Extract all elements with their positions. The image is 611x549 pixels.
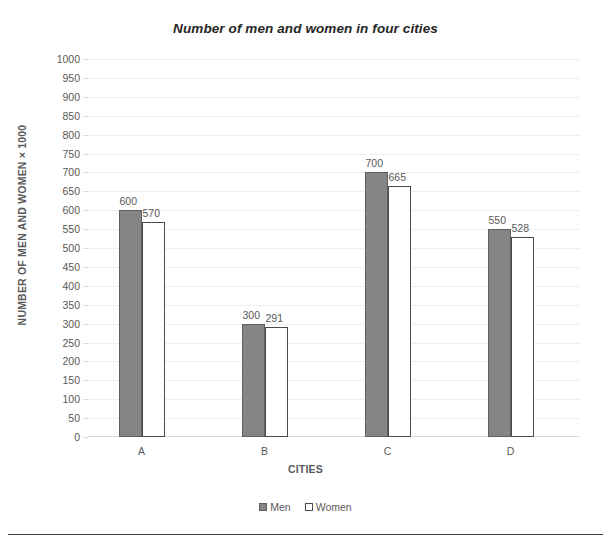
legend-label: Women xyxy=(316,501,352,513)
bar-value-label: 291 xyxy=(266,313,284,324)
y-tick-mark xyxy=(84,437,88,438)
gridline xyxy=(88,135,580,136)
y-tick-label: 100 xyxy=(36,394,80,404)
y-tick-label: 700 xyxy=(36,167,80,177)
y-tick-label: 950 xyxy=(36,73,80,83)
x-category-label-d: D xyxy=(471,446,551,457)
bar-men-d xyxy=(488,229,511,437)
legend-label: Men xyxy=(270,501,290,513)
x-category-label-b: B xyxy=(225,446,305,457)
bar-women-d xyxy=(511,237,534,437)
gridline xyxy=(88,59,580,60)
plot-area: 600570300291700665550528 xyxy=(88,59,580,437)
bar-women-a xyxy=(142,222,165,437)
gridline xyxy=(88,116,580,117)
y-tick-label: 200 xyxy=(36,356,80,366)
bar-value-label: 528 xyxy=(512,223,530,234)
y-tick-label: 900 xyxy=(36,92,80,102)
y-tick-label: 600 xyxy=(36,205,80,215)
bar-value-label: 600 xyxy=(120,196,138,207)
gridline xyxy=(88,154,580,155)
bar-value-label: 570 xyxy=(143,208,161,219)
y-tick-label: 750 xyxy=(36,149,80,159)
x-category-label-a: A xyxy=(102,446,182,457)
legend-swatch-icon xyxy=(305,503,313,511)
y-tick-label: 300 xyxy=(36,319,80,329)
x-axis-title: CITIES xyxy=(0,463,611,475)
y-tick-label: 250 xyxy=(36,338,80,348)
x-category-label-c: C xyxy=(348,446,428,457)
y-tick-label: 650 xyxy=(36,186,80,196)
gridline xyxy=(88,78,580,79)
bar-chart-figure: Number of men and women in four cities N… xyxy=(0,0,611,549)
chart-legend: MenWomen xyxy=(0,501,611,513)
y-tick-label: 800 xyxy=(36,130,80,140)
y-tick-label: 450 xyxy=(36,262,80,272)
y-tick-label: 150 xyxy=(36,375,80,385)
y-tick-label: 500 xyxy=(36,243,80,253)
bar-men-c xyxy=(365,172,388,437)
gridline xyxy=(88,191,580,192)
y-tick-label: 400 xyxy=(36,281,80,291)
gridline xyxy=(88,97,580,98)
bar-value-label: 700 xyxy=(366,158,384,169)
bar-value-label: 300 xyxy=(243,310,261,321)
legend-entry-women[interactable]: Women xyxy=(305,501,352,513)
y-tick-label: 850 xyxy=(36,111,80,121)
bottom-divider xyxy=(8,534,603,535)
bar-value-label: 665 xyxy=(389,172,407,183)
y-tick-label: 350 xyxy=(36,300,80,310)
bar-women-b xyxy=(265,327,288,437)
bar-women-c xyxy=(388,186,411,437)
bar-value-label: 550 xyxy=(489,215,507,226)
legend-swatch-icon xyxy=(259,503,267,511)
y-tick-label: 1000 xyxy=(36,54,80,64)
gridline xyxy=(88,210,580,211)
y-tick-label: 50 xyxy=(36,413,80,423)
y-tick-label: 0 xyxy=(36,432,80,442)
legend-entry-men[interactable]: Men xyxy=(259,501,290,513)
bar-men-b xyxy=(242,324,265,437)
gridline xyxy=(88,172,580,173)
bar-men-a xyxy=(119,210,142,437)
y-tick-label: 550 xyxy=(36,224,80,234)
